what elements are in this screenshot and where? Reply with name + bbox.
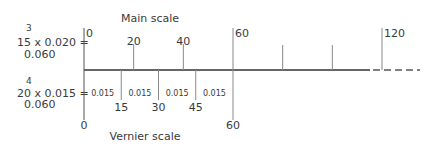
vernier-tick-label: 60 (226, 119, 240, 132)
vernier-equation-superscript: 4 (26, 76, 32, 86)
vernier-interval-label: 0.015 (166, 89, 189, 98)
vernier-interval-label: 0.015 (91, 89, 114, 98)
vernier-scale-ticks: 015304560 (81, 70, 241, 132)
vernier-equation: 4 20 x 0.015 = 0.060 (17, 76, 89, 111)
vernier-tick-label: 0 (81, 119, 88, 132)
vernier-interval-label: 0.015 (128, 89, 151, 98)
main-equation-superscript: 3 (26, 23, 32, 33)
vernier-diagram: Main scale Vernier scale 3 15 x 0.020 = … (0, 0, 425, 148)
main-scale-ticks: 0204060120 (84, 27, 405, 70)
vernier-equation-result: 0.060 (24, 98, 56, 111)
main-tick-label: 60 (235, 27, 249, 40)
main-tick-label: 40 (176, 35, 190, 48)
main-equation: 3 15 x 0.020 = 0.060 (17, 23, 89, 61)
main-tick-label: 0 (86, 27, 93, 40)
main-equation-result: 0.060 (24, 48, 56, 61)
vernier-tick-label: 15 (114, 101, 128, 114)
vernier-interval-label: 0.015 (203, 89, 226, 98)
main-tick-label: 20 (127, 35, 141, 48)
main-tick-label: 120 (384, 27, 405, 40)
vernier-scale-title: Vernier scale (110, 130, 181, 143)
main-scale-title: Main scale (121, 12, 179, 25)
vernier-tick-label: 45 (189, 101, 203, 114)
vernier-tick-label: 30 (152, 101, 166, 114)
